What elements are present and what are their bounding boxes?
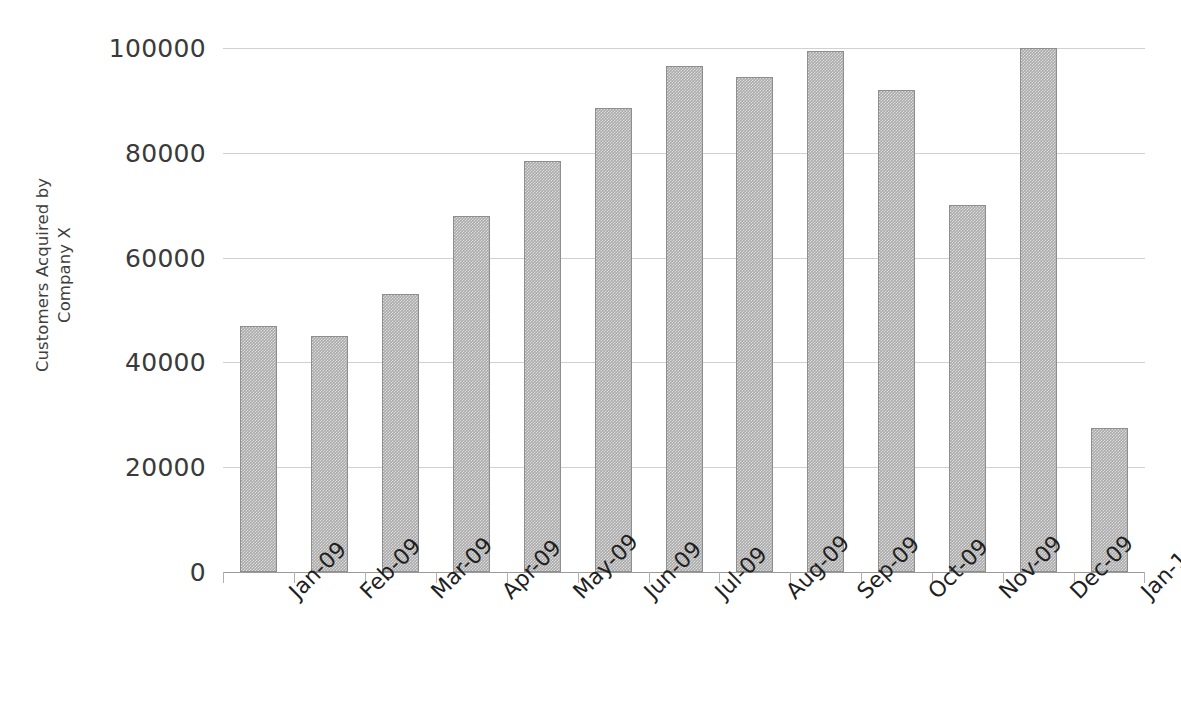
x-axis-tick xyxy=(223,572,224,583)
y-axis-tick-label: 80000 xyxy=(86,138,206,167)
bar[interactable] xyxy=(240,326,277,572)
x-axis-tick-label: Jul-09 xyxy=(710,586,728,604)
x-axis-tick-label: Dec-09 xyxy=(1065,586,1083,604)
x-axis-tick-label: May-09 xyxy=(568,586,586,604)
bar[interactable] xyxy=(878,90,915,572)
bars-layer xyxy=(223,48,1145,572)
y-axis-tick-label: 40000 xyxy=(86,348,206,377)
x-axis-tick-label: Jan-10 xyxy=(1136,586,1154,604)
bar[interactable] xyxy=(807,51,844,572)
bar[interactable] xyxy=(736,77,773,572)
x-axis-tick-label: Jan-09 xyxy=(284,586,302,604)
bar[interactable] xyxy=(524,161,561,572)
bar[interactable] xyxy=(1020,48,1057,572)
x-axis-tick-label: Mar-09 xyxy=(426,586,444,604)
bar[interactable] xyxy=(382,294,419,572)
bar[interactable] xyxy=(311,336,348,572)
x-axis-tick-label: Apr-09 xyxy=(497,586,515,604)
x-axis-tick-label: Oct-09 xyxy=(923,586,941,604)
x-axis-tick-label: Jun-09 xyxy=(639,586,657,604)
x-axis-tick-label: Feb-09 xyxy=(355,586,373,604)
y-axis-title-line-1: Customers Acquired by xyxy=(32,178,54,372)
y-axis-title: Customers Acquired by Company X xyxy=(31,115,77,435)
plot-area xyxy=(223,48,1145,572)
x-axis-tick-label: Nov-09 xyxy=(994,586,1012,604)
y-axis-tick-label: 60000 xyxy=(86,243,206,272)
bar[interactable] xyxy=(595,108,632,572)
y-axis-tick-labels: 020000400006000080000100000 xyxy=(80,0,206,706)
bar[interactable] xyxy=(949,205,986,572)
x-axis-tick-label: Sep-09 xyxy=(852,586,870,604)
bar[interactable] xyxy=(453,216,490,572)
y-axis-title-line-2: Company X xyxy=(54,227,76,323)
y-axis-tick-label: 20000 xyxy=(86,453,206,482)
y-axis-tick-label: 100000 xyxy=(86,34,206,63)
x-axis-tick-label: Aug-09 xyxy=(781,586,799,604)
bar[interactable] xyxy=(666,66,703,572)
bar-chart: Customers Acquired by Company X 02000040… xyxy=(0,0,1181,706)
y-axis-tick-label: 0 xyxy=(86,558,206,587)
x-axis-tick-labels: Jan-09Feb-09Mar-09Apr-09May-09Jun-09Jul-… xyxy=(223,586,1145,706)
